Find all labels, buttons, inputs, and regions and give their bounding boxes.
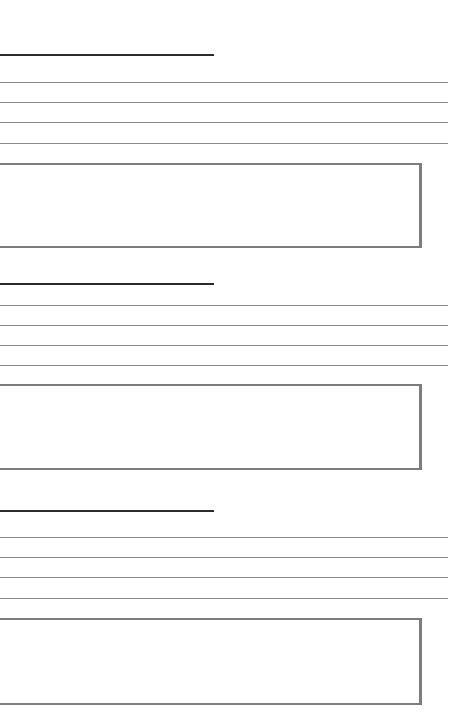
write-line-4[interactable] <box>0 143 448 144</box>
write-line-4[interactable] <box>0 598 448 599</box>
write-line-3[interactable] <box>0 577 448 578</box>
write-line-2[interactable] <box>0 557 448 558</box>
write-line-1[interactable] <box>0 82 448 83</box>
write-line-2[interactable] <box>0 102 448 103</box>
page-header-text <box>2 0 162 8</box>
answer-box[interactable] <box>0 163 422 248</box>
write-line-1[interactable] <box>0 537 448 538</box>
section-heading-rule <box>0 54 214 56</box>
answer-box[interactable] <box>0 384 422 470</box>
write-line-2[interactable] <box>0 325 448 326</box>
section-heading-rule <box>0 510 214 512</box>
write-line-3[interactable] <box>0 345 448 346</box>
section-heading-rule <box>0 283 214 285</box>
write-line-3[interactable] <box>0 122 448 123</box>
write-line-4[interactable] <box>0 365 448 366</box>
form-page <box>0 0 450 727</box>
write-line-1[interactable] <box>0 305 448 306</box>
answer-box[interactable] <box>0 618 422 705</box>
